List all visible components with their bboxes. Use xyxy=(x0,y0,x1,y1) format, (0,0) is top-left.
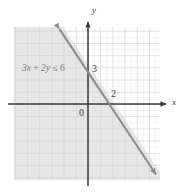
origin-label: 0 xyxy=(79,108,84,118)
inequality-graph-figure: y x 0 3 2 3x + 2y ≤ 6 xyxy=(0,0,187,194)
inequality-annotation: 3x + 2y ≤ 6 xyxy=(22,64,65,74)
inequality-coef-y: 2y xyxy=(41,63,50,73)
x-intercept-label: 2 xyxy=(111,89,116,99)
inequality-constant: 6 xyxy=(60,63,65,73)
x-axis-label: x xyxy=(172,98,176,107)
inequality-coef-x: 3x xyxy=(22,63,31,73)
inequality-plus: + xyxy=(31,63,41,73)
inequality-operator: ≤ xyxy=(50,63,60,73)
y-intercept-label: 3 xyxy=(92,64,97,74)
y-axis-label: y xyxy=(92,6,96,15)
graph-canvas xyxy=(0,0,187,194)
